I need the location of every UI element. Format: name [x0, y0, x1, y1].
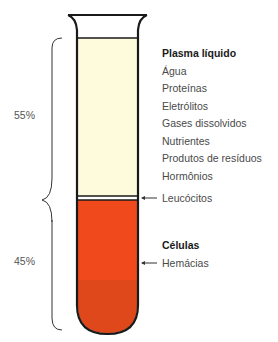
cells-item: Hemácias	[162, 258, 209, 269]
cells-percentage: 45%	[14, 255, 35, 267]
plasma-brace	[42, 38, 62, 222]
plasma-item: Eletrólitos	[162, 101, 208, 112]
plasma-item: Gases dissolvidos	[162, 118, 247, 129]
plasma-layer	[78, 38, 137, 196]
plasma-item: Produtos de resíduos	[162, 153, 262, 164]
cells-brace	[52, 220, 62, 330]
red-cell-layer-dark	[78, 280, 137, 333]
buffy-coat-label: Leucócitos	[162, 193, 212, 204]
plasma-item: Proteínas	[162, 83, 207, 94]
cells-heading: Células	[162, 240, 199, 251]
test-tube-diagram	[0, 0, 278, 342]
plasma-percentage: 55%	[14, 109, 35, 121]
plasma-item: Hormônios	[162, 171, 213, 182]
plasma-heading: Plasma líquido	[162, 48, 236, 59]
plasma-item: Água	[162, 66, 187, 77]
plasma-item: Nutrientes	[162, 136, 210, 147]
